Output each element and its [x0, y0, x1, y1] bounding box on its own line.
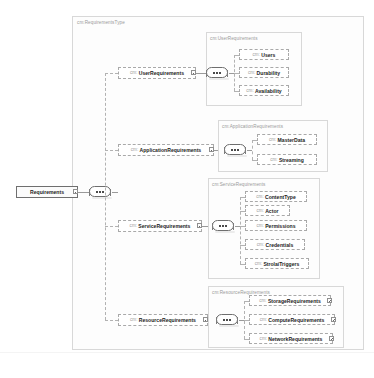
connector-branch-spine	[105, 73, 106, 320]
element-compute-requirements-namespace: cm:	[260, 317, 267, 323]
sequence-bar-right	[237, 317, 238, 324]
connector-user-to-sequence	[196, 73, 206, 74]
element-requirements[interactable]: Requirements	[16, 186, 78, 198]
connector-root-sequence-out	[112, 192, 118, 193]
element-credentials-namespace: cm:	[257, 242, 264, 248]
connector-root-to-sequence	[78, 192, 89, 193]
element-network-requirements-expand-toggle[interactable]	[329, 336, 334, 341]
element-availability[interactable]: cm: Availability	[239, 85, 289, 96]
sequence-bar-right	[245, 147, 246, 154]
sequence-bar-left	[224, 147, 225, 154]
compositor-user-sequence[interactable]	[206, 67, 228, 78]
connector-service-children-spine	[240, 197, 241, 264]
element-streaming-label: Streaming	[279, 157, 304, 163]
element-permissions-namespace: cm:	[257, 223, 264, 229]
element-content-type[interactable]: cm: ContentType	[245, 191, 307, 202]
connector-spine-to-resource	[105, 320, 118, 321]
sequence-bar-right	[233, 223, 234, 230]
sequence-dot	[237, 149, 239, 151]
page-rule	[0, 352, 374, 353]
compositor-root-sequence[interactable]	[89, 186, 111, 197]
schema-diagram-canvas: cm:RequirementsType Requirements cm: Use…	[0, 0, 374, 378]
compositor-application-sequence[interactable]	[224, 144, 246, 155]
frame-label-requirements-type: cm:RequirementsType	[77, 20, 125, 26]
frame-label-service-requirements: cm:ServiceRequirements	[212, 182, 266, 188]
element-storage-requirements-expand-toggle[interactable]	[327, 298, 332, 303]
sequence-dot	[219, 225, 221, 227]
sequence-bar-left	[216, 317, 217, 324]
sequence-bar-left	[212, 223, 213, 230]
compositor-service-sequence[interactable]	[212, 220, 234, 231]
element-users[interactable]: cm: Users	[239, 49, 289, 60]
element-resource-requirements[interactable]: cm: ResourceRequirements	[118, 314, 208, 326]
element-master-data-namespace: cm:	[269, 137, 276, 143]
sequence-dot	[222, 225, 224, 227]
element-strolai-triggers-label: StrolaiTriggers	[263, 261, 299, 267]
sequence-dot	[234, 149, 236, 151]
element-strolai-triggers[interactable]: cm: StrolaiTriggers	[245, 258, 309, 269]
connector-spine-to-user	[105, 73, 118, 74]
element-user-requirements[interactable]: cm: UserRequirements	[118, 67, 196, 79]
element-compute-requirements-expand-toggle[interactable]	[331, 317, 336, 322]
element-content-type-label: ContentType	[265, 194, 296, 200]
element-service-requirements[interactable]: cm: ServiceRequirements	[118, 220, 202, 232]
element-actor-label: Actor	[265, 208, 278, 214]
sequence-bar-right	[110, 189, 111, 196]
element-requirements-label: Requirements	[30, 189, 64, 195]
element-credentials[interactable]: cm: Credentials	[245, 239, 305, 250]
sequence-dot	[219, 72, 221, 74]
element-application-requirements-label: ApplicationRequirements	[140, 147, 202, 153]
element-master-data[interactable]: cm: MasterData	[257, 134, 317, 145]
sequence-dot	[216, 72, 218, 74]
sequence-bar-left	[206, 70, 207, 77]
element-user-requirements-namespace: cm:	[130, 70, 137, 76]
element-storage-requirements[interactable]: cm: StorageRequirements	[249, 295, 331, 306]
element-strolai-triggers-namespace: cm:	[255, 261, 262, 267]
frame-label-application-requirements: cm:ApplicationRequirements	[222, 124, 283, 130]
element-application-requirements[interactable]: cm: ApplicationRequirements	[118, 144, 214, 156]
element-permissions[interactable]: cm: Permissions	[245, 220, 307, 231]
frame-label-user-requirements: cm:UserRequirements	[210, 36, 258, 42]
element-streaming-namespace: cm:	[270, 157, 277, 163]
element-service-requirements-label: ServiceRequirements	[138, 223, 190, 229]
element-durability-namespace: cm:	[248, 70, 255, 76]
element-master-data-label: MasterData	[278, 137, 305, 143]
sequence-dot	[99, 191, 101, 193]
element-users-namespace: cm:	[253, 52, 260, 58]
sequence-bar-left	[89, 189, 90, 196]
element-actor-namespace: cm:	[256, 208, 263, 214]
element-streaming[interactable]: cm: Streaming	[257, 154, 317, 165]
element-network-requirements[interactable]: cm: NetworkRequirements	[249, 333, 333, 344]
element-durability[interactable]: cm: Durability	[239, 67, 289, 78]
element-storage-requirements-label: StorageRequirements	[268, 298, 321, 304]
element-network-requirements-namespace: cm:	[260, 336, 267, 342]
sequence-bar-right	[227, 70, 228, 77]
element-availability-label: Availability	[255, 88, 282, 94]
element-permissions-label: Permissions	[265, 223, 295, 229]
element-user-requirements-label: UserRequirements	[139, 70, 184, 76]
element-service-requirements-namespace: cm:	[130, 223, 137, 229]
sequence-dot	[231, 149, 233, 151]
element-resource-requirements-label: ResourceRequirements	[139, 317, 196, 323]
connector-application-children-spine	[252, 140, 253, 160]
compositor-resource-sequence[interactable]	[216, 314, 238, 325]
element-content-type-namespace: cm:	[256, 194, 263, 200]
element-actor[interactable]: cm: Actor	[245, 205, 290, 216]
sequence-dot	[225, 225, 227, 227]
element-application-requirements-namespace: cm:	[131, 147, 138, 153]
sequence-dot	[223, 319, 225, 321]
connector-spine-to-application	[105, 150, 118, 151]
element-network-requirements-label: NetworkRequirements	[268, 336, 322, 342]
element-compute-requirements-label: ComputeRequirements	[268, 317, 324, 323]
sequence-dot	[213, 72, 215, 74]
element-durability-label: Durability	[257, 70, 281, 76]
sequence-dot	[226, 319, 228, 321]
sequence-dot	[96, 191, 98, 193]
element-storage-requirements-namespace: cm:	[259, 298, 266, 304]
element-resource-requirements-namespace: cm:	[130, 317, 137, 323]
connector-spine-to-service	[105, 226, 118, 227]
sequence-dot	[229, 319, 231, 321]
element-availability-namespace: cm:	[246, 88, 253, 94]
element-compute-requirements[interactable]: cm: ComputeRequirements	[249, 314, 335, 325]
element-credentials-label: Credentials	[265, 242, 293, 248]
